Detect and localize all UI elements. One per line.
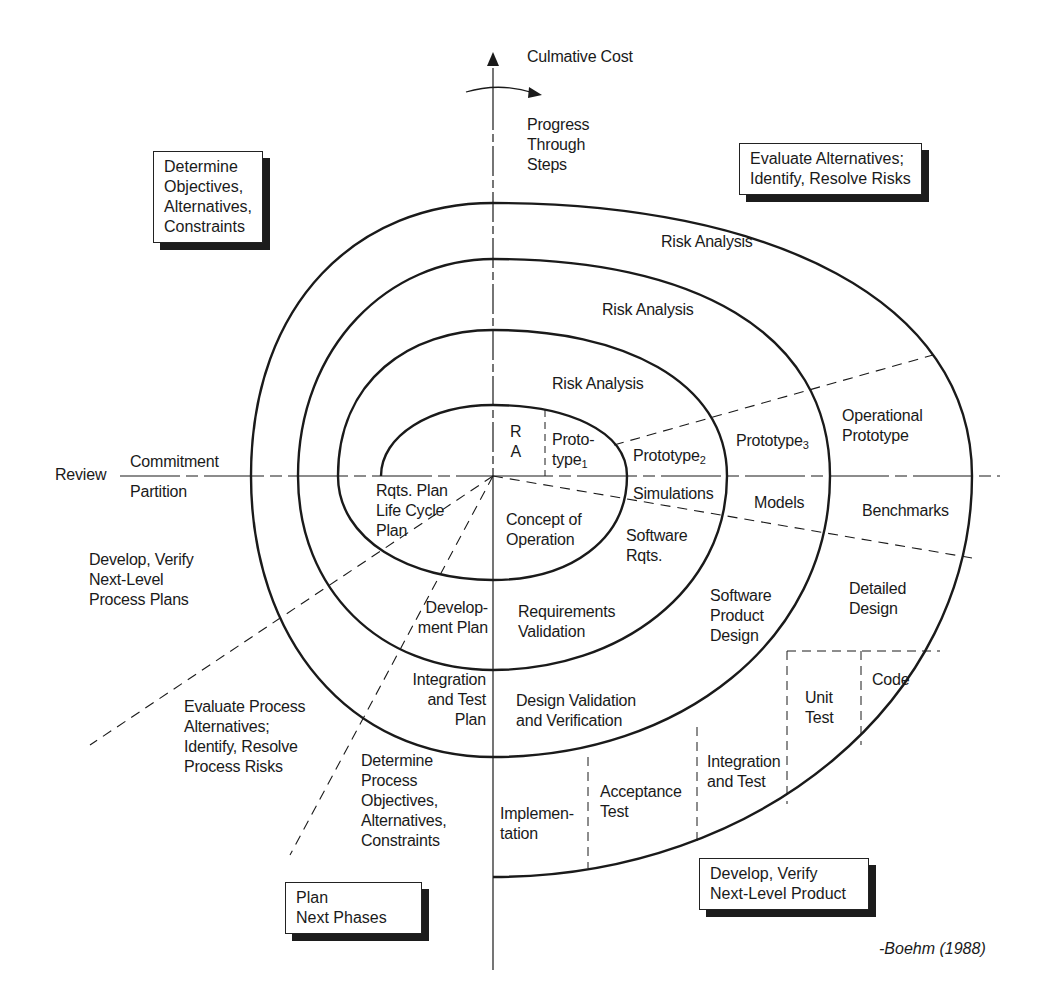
impl-line2: tation bbox=[500, 824, 574, 844]
evaluate-process-label: Evaluate Process Alternatives; Identify,… bbox=[184, 697, 305, 777]
simulations-label: Simulations bbox=[633, 484, 714, 504]
at-line1: Acceptance bbox=[600, 782, 682, 802]
dp-line4: Alternatives, bbox=[361, 811, 446, 831]
reqval-line1: Requirements bbox=[518, 602, 615, 622]
devp-line1: Develop- bbox=[406, 598, 488, 618]
design-validation-label: Design Validation and Verification bbox=[516, 691, 636, 731]
integration-and-test-label: Integration and Test bbox=[707, 752, 780, 792]
quadrant-box-evaluate-alternatives: Evaluate Alternatives; Identify, Resolve… bbox=[739, 143, 922, 195]
proto1-line2: type1 bbox=[552, 450, 594, 474]
quadrant-box-develop-verify-product: Develop, Verify Next-Level Product bbox=[699, 858, 869, 910]
develop-verify-process-label: Develop, Verify Next-Level Process Plans bbox=[89, 550, 194, 610]
rp-line2: Life Cycle bbox=[376, 501, 448, 521]
citation: -Boehm (1988) bbox=[879, 940, 986, 958]
itp-line2: and Test bbox=[396, 690, 486, 710]
risk-analysis-inner: Risk Analysis bbox=[552, 374, 644, 394]
progress-line-3: Steps bbox=[527, 155, 589, 175]
proto2-sub: 2 bbox=[700, 454, 706, 466]
unit-test-label: Unit Test bbox=[805, 688, 834, 728]
proto3-sub: 3 bbox=[803, 439, 809, 451]
itp-line3: Plan bbox=[396, 710, 486, 730]
ra-r: R bbox=[510, 422, 521, 442]
concept-of-operation-label: Concept of Operation bbox=[506, 510, 581, 550]
dd-line2: Design bbox=[849, 599, 906, 619]
spd-line1: Software bbox=[710, 586, 772, 606]
quadrant-box-plan-next-phases: Plan Next Phases bbox=[285, 882, 422, 934]
at-line2: Test bbox=[600, 802, 682, 822]
dvp-line2: Next-Level bbox=[89, 570, 194, 590]
rp-line1: Rqts. Plan bbox=[376, 481, 448, 501]
op-line1: Operational bbox=[842, 406, 923, 426]
ra-a: A bbox=[510, 442, 521, 462]
ut-line1: Unit bbox=[805, 688, 834, 708]
box-line: Constraints bbox=[164, 217, 252, 237]
partition-label: Partition bbox=[130, 482, 187, 502]
prototype-3-label: Prototype3 bbox=[736, 431, 809, 455]
spd-line2: Product bbox=[710, 606, 772, 626]
proto1-text: type bbox=[552, 451, 581, 468]
development-plan-label: Develop- ment Plan bbox=[406, 598, 488, 638]
axis-arrow-up-icon bbox=[487, 52, 499, 66]
progress-line-1: Progress bbox=[527, 115, 589, 135]
box-line: Evaluate Alternatives; bbox=[750, 149, 911, 169]
prototype-1-label: Proto- type1 bbox=[552, 430, 594, 474]
determine-process-label: Determine Process Objectives, Alternativ… bbox=[361, 751, 446, 851]
progress-line-2: Through bbox=[527, 135, 589, 155]
swrqts-line2: Rqts. bbox=[626, 546, 688, 566]
risk-analysis-ra: R A bbox=[510, 422, 521, 462]
dd-line1: Detailed bbox=[849, 579, 906, 599]
box-line: Objectives, bbox=[164, 177, 252, 197]
proto1-sub: 1 bbox=[581, 458, 587, 470]
dv-line1: Design Validation bbox=[516, 691, 636, 711]
ep-line2: Alternatives; bbox=[184, 717, 305, 737]
devp-line2: ment Plan bbox=[406, 618, 488, 638]
dvp-line1: Develop, Verify bbox=[89, 550, 194, 570]
software-rqts-label: Software Rqts. bbox=[626, 526, 688, 566]
software-product-design-label: Software Product Design bbox=[710, 586, 772, 646]
dvp-line3: Process Plans bbox=[89, 590, 194, 610]
rqts-plan-label: Rqts. Plan Life Cycle Plan bbox=[376, 481, 448, 541]
op-line2: Prototype bbox=[842, 426, 923, 446]
requirements-validation-label: Requirements Validation bbox=[518, 602, 615, 642]
concept-line1: Concept of bbox=[506, 510, 581, 530]
models-label: Models bbox=[754, 493, 804, 513]
box-line: Identify, Resolve Risks bbox=[750, 169, 911, 189]
impl-line1: Implemen- bbox=[500, 804, 574, 824]
commitment-label: Commitment bbox=[130, 452, 219, 472]
box-line: Next-Level Product bbox=[710, 884, 846, 904]
rp-line3: Plan bbox=[376, 521, 448, 541]
rotation-arrowhead-icon bbox=[528, 87, 542, 98]
box-line: Develop, Verify bbox=[710, 864, 846, 884]
box-line: Plan bbox=[296, 888, 387, 908]
ep-line3: Identify, Resolve bbox=[184, 737, 305, 757]
review-label: Review bbox=[55, 465, 106, 485]
progress-label: Progress Through Steps bbox=[527, 115, 589, 175]
swrqts-line1: Software bbox=[626, 526, 688, 546]
acceptance-test-label: Acceptance Test bbox=[600, 782, 682, 822]
detailed-design-label: Detailed Design bbox=[849, 579, 906, 619]
box-line: Next Phases bbox=[296, 908, 387, 928]
itp-line1: Integration bbox=[396, 670, 486, 690]
operational-prototype-label: Operational Prototype bbox=[842, 406, 923, 446]
ep-line4: Process Risks bbox=[184, 757, 305, 777]
it-line1: Integration bbox=[707, 752, 780, 772]
benchmarks-label: Benchmarks bbox=[862, 501, 949, 521]
risk-analysis-outer: Risk Analysis bbox=[661, 232, 753, 252]
dv-line2: and Verification bbox=[516, 711, 636, 731]
dp-line5: Constraints bbox=[361, 831, 446, 851]
proto2-text: Prototype bbox=[633, 447, 700, 464]
box-line: Determine bbox=[164, 157, 252, 177]
cumulative-cost-label: Culmative Cost bbox=[527, 47, 633, 67]
concept-line2: Operation bbox=[506, 530, 581, 550]
dp-line2: Process bbox=[361, 771, 446, 791]
dp-line3: Objectives, bbox=[361, 791, 446, 811]
spd-line3: Design bbox=[710, 626, 772, 646]
dp-line1: Determine bbox=[361, 751, 446, 771]
implementation-label: Implemen- tation bbox=[500, 804, 574, 844]
ep-line1: Evaluate Process bbox=[184, 697, 305, 717]
proto1-line1: Proto- bbox=[552, 430, 594, 450]
proto3-text: Prototype bbox=[736, 432, 803, 449]
integration-test-plan-label: Integration and Test Plan bbox=[396, 670, 486, 730]
code-label: Code bbox=[872, 670, 909, 690]
rotation-arrow-icon bbox=[466, 87, 534, 93]
